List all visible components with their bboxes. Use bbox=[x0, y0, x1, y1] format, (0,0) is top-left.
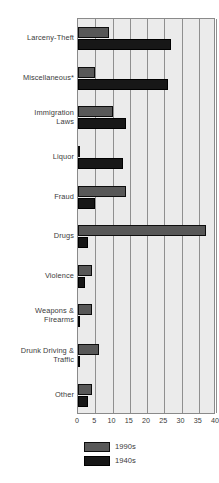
category-label: Liquor bbox=[0, 152, 74, 161]
bar-1990s bbox=[78, 304, 92, 315]
bar-1990s bbox=[78, 186, 126, 197]
bar-1940s bbox=[78, 237, 88, 248]
x-tick-label: 40 bbox=[211, 416, 219, 425]
gridline bbox=[216, 19, 217, 413]
x-tick-label: 30 bbox=[177, 416, 185, 425]
bar-1990s bbox=[78, 27, 109, 38]
bar-1990s bbox=[78, 384, 92, 395]
bar-1940s bbox=[78, 356, 80, 367]
category-label-line: Drugs bbox=[0, 231, 74, 240]
bar-1990s bbox=[78, 265, 92, 276]
category-label-line: Drunk Driving & bbox=[0, 346, 74, 355]
category-label-line: Laws bbox=[0, 117, 74, 126]
category-label-line: Liquor bbox=[0, 152, 74, 161]
x-axis-ticks: 0510152025303540 bbox=[77, 416, 215, 428]
category-label: Drunk Driving &Traffic bbox=[0, 346, 74, 364]
bar-1940s bbox=[78, 79, 168, 90]
bar-group bbox=[78, 19, 214, 59]
legend-swatch bbox=[84, 456, 110, 466]
category-label: Other bbox=[0, 390, 74, 399]
bar-1990s bbox=[78, 67, 95, 78]
category-label-line: Other bbox=[0, 390, 74, 399]
plot-area bbox=[77, 18, 215, 414]
bar-1940s bbox=[78, 316, 80, 327]
bar-group bbox=[78, 98, 214, 138]
bar-group bbox=[78, 217, 214, 257]
x-tick-label: 20 bbox=[142, 416, 150, 425]
bar-1990s bbox=[78, 225, 206, 236]
legend-label: 1990s bbox=[115, 442, 136, 451]
x-tick-label: 5 bbox=[92, 416, 96, 425]
category-label-line: Immigration bbox=[0, 108, 74, 117]
category-label: Violence bbox=[0, 271, 74, 280]
category-axis-labels: Larceny-TheftMiscellaneous*ImmigrationLa… bbox=[0, 18, 74, 414]
bar-1940s bbox=[78, 198, 95, 209]
category-label-line: Fraud bbox=[0, 192, 74, 201]
x-tick-label: 35 bbox=[194, 416, 202, 425]
bar-chart: Larceny-TheftMiscellaneous*ImmigrationLa… bbox=[0, 0, 219, 483]
bar-group bbox=[78, 336, 214, 376]
category-label: ImmigrationLaws bbox=[0, 108, 74, 126]
category-label: Larceny-Theft bbox=[0, 33, 74, 42]
category-label-line: Weapons & bbox=[0, 306, 74, 315]
bar-1990s bbox=[78, 106, 113, 117]
category-label-line: Larceny-Theft bbox=[0, 33, 74, 42]
category-label: Miscellaneous* bbox=[0, 73, 74, 82]
category-label: Drugs bbox=[0, 231, 74, 240]
bar-group bbox=[78, 138, 214, 178]
bar-rows bbox=[78, 19, 214, 413]
category-label: Fraud bbox=[0, 192, 74, 201]
plot-wrapper bbox=[77, 18, 215, 414]
bar-1940s bbox=[78, 158, 123, 169]
category-label-line: Violence bbox=[0, 271, 74, 280]
category-label-line: Firearms bbox=[0, 315, 74, 324]
bar-1940s bbox=[78, 396, 88, 407]
category-label-line: Traffic bbox=[0, 355, 74, 364]
legend-label: 1940s bbox=[115, 456, 136, 465]
legend-item: 1990s bbox=[84, 441, 136, 452]
legend-item: 1940s bbox=[84, 455, 136, 466]
bar-1940s bbox=[78, 118, 126, 129]
bar-1990s bbox=[78, 344, 99, 355]
category-label: Weapons &Firearms bbox=[0, 306, 74, 324]
bar-1940s bbox=[78, 39, 171, 50]
category-label-line: Miscellaneous* bbox=[0, 73, 74, 82]
bar-1990s bbox=[78, 146, 80, 157]
bar-group bbox=[78, 257, 214, 297]
chart-legend: 1990s1940s bbox=[84, 441, 136, 469]
legend-swatch bbox=[84, 442, 110, 452]
x-tick-label: 15 bbox=[125, 416, 133, 425]
bar-group bbox=[78, 296, 214, 336]
bar-1940s bbox=[78, 277, 85, 288]
bar-group bbox=[78, 375, 214, 415]
x-tick-label: 25 bbox=[159, 416, 167, 425]
bar-group bbox=[78, 177, 214, 217]
x-tick-label: 0 bbox=[75, 416, 79, 425]
bar-group bbox=[78, 59, 214, 99]
x-tick-label: 10 bbox=[108, 416, 116, 425]
